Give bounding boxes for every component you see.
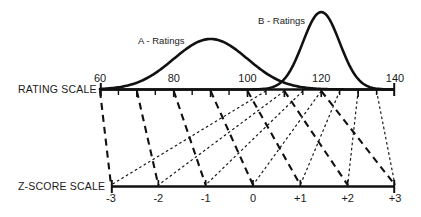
rating-tick-label: 80 [168, 72, 180, 84]
curve-b-annotation: B - Ratings [258, 15, 305, 26]
rating-tick-label: 120 [312, 72, 330, 84]
connector-b [253, 91, 321, 185]
rating-tick-label: 140 [386, 72, 404, 84]
curve-a-annotation: A - Ratings [138, 35, 185, 46]
connector-b [348, 91, 358, 185]
rating-scale-axis-label: RATING SCALE [18, 83, 97, 95]
connector-a [137, 91, 158, 185]
connector-b [300, 91, 339, 185]
zscore-tick-label: -1 [201, 192, 211, 204]
connector-a [100, 91, 111, 185]
connector-b [377, 91, 395, 185]
zscore-tick-label: 0 [250, 192, 256, 204]
zscore-scale-axis-label: Z-SCORE SCALE [18, 180, 105, 192]
zscore-tick-label: +3 [389, 192, 402, 204]
connector-a [284, 91, 347, 185]
connector-b [111, 91, 266, 185]
zscore-tick-label: -3 [106, 192, 116, 204]
connector-b [158, 91, 284, 185]
zscore-tick-label: -2 [153, 192, 163, 204]
zscore-axis-tick-labels: -3-2-10+1+2+3 [106, 192, 401, 204]
connectors-b-ratings [111, 91, 395, 185]
zscore-conversion-figure: 6080100120140 -3-2-10+1+2+3 RATING SCALE… [0, 0, 421, 217]
connectors-a-ratings [100, 91, 395, 185]
zscore-scale-axis: -3-2-10+1+2+3 [106, 180, 401, 204]
figure-canvas: 6080100120140 -3-2-10+1+2+3 RATING SCALE… [0, 0, 421, 217]
zscore-tick-label: +2 [341, 192, 354, 204]
connector-a [174, 91, 206, 185]
rating-tick-label: 100 [238, 72, 256, 84]
rating-tick-label: 60 [94, 72, 106, 84]
connector-a [321, 91, 395, 185]
connector-a [211, 91, 253, 185]
zscore-tick-label: +1 [294, 192, 307, 204]
connector-a [248, 91, 301, 185]
